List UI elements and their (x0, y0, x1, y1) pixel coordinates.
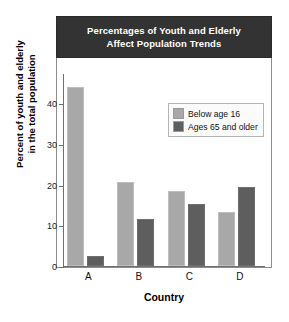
legend-item-ages-65-and-older: Ages 65 and older (173, 121, 258, 132)
y-tick-label: 30 (47, 140, 57, 150)
y-tick-mark (59, 267, 64, 268)
legend-item-below-age-16: Below age 16 (173, 108, 258, 119)
y-tick-mark (59, 186, 64, 187)
y-tick-label: 0 (52, 262, 57, 272)
x-tick-label-C: C (186, 271, 193, 282)
bar-C-ages-65-and-older (188, 204, 205, 266)
y-axis-title-line-1: Percent of youth and elderly (14, 16, 26, 192)
y-tick-label: 10 (47, 221, 57, 231)
legend-label: Ages 65 and older (188, 122, 258, 132)
legend-label: Below age 16 (188, 109, 240, 119)
bar-A-ages-65-and-older (87, 256, 104, 266)
y-tick-mark (59, 226, 64, 227)
x-tick-label-D: D (236, 271, 243, 282)
chart-legend: Below age 16Ages 65 and older (168, 103, 264, 137)
chart-title-banner: Percentages of Youth and Elderly Affect … (56, 16, 272, 58)
y-tick-label: 20 (47, 181, 57, 191)
y-axis-line (63, 74, 64, 267)
x-axis-title: Country (63, 291, 265, 303)
bar-B-below-age-16 (117, 182, 134, 266)
bar-D-below-age-16 (218, 212, 235, 266)
chart-figure: Percentages of Youth and Elderly Affect … (0, 0, 289, 322)
bar-D-ages-65-and-older (238, 187, 255, 266)
legend-swatch (173, 108, 184, 119)
y-tick-label: 40 (47, 99, 57, 109)
chart-title-line-2: Affect Population Trends (107, 37, 222, 50)
bar-B-ages-65-and-older (137, 219, 154, 266)
bar-A-below-age-16 (67, 87, 84, 266)
y-axis-title: Percent of youth and elderly in the tota… (14, 16, 38, 192)
x-tick-label-A: A (85, 271, 92, 282)
y-axis-title-line-2: in the total population (26, 16, 38, 192)
y-tick-mark (59, 104, 64, 105)
bar-C-below-age-16 (168, 191, 185, 266)
x-tick-label-B: B (135, 271, 142, 282)
chart-title-line-1: Percentages of Youth and Elderly (87, 24, 241, 37)
legend-swatch (173, 121, 184, 132)
y-tick-mark (59, 145, 64, 146)
